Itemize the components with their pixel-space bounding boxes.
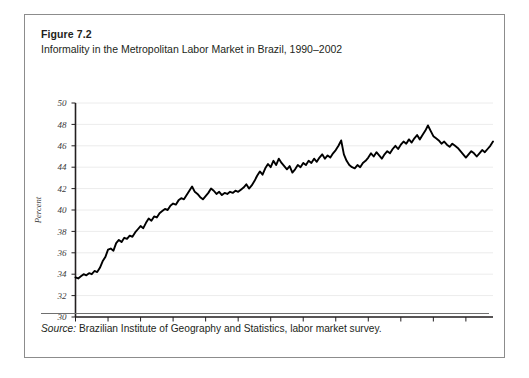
line-chart: 3032343638404244464850 Jan 90Jan 91Jan 9… — [25, 73, 504, 323]
source-note: Source: Brazilian Institute of Geography… — [41, 322, 490, 336]
y-tick-label-46: 46 — [58, 141, 68, 151]
figure-header: Figure 7.2 Informality in the Metropolit… — [41, 27, 490, 57]
y-axis-tick-labels: 3032343638404244464850 — [57, 98, 68, 322]
y-tick-label-36: 36 — [57, 248, 68, 258]
chart-plot-area: 3032343638404244464850 Jan 90Jan 91Jan 9… — [25, 73, 504, 323]
figure-title: Informality in the Metropolitan Labor Ma… — [41, 42, 490, 57]
y-tick-label-32: 32 — [57, 291, 68, 301]
y-tick-label-40: 40 — [58, 205, 68, 215]
y-tick-label-44: 44 — [58, 162, 68, 172]
y-tick-label-50: 50 — [58, 98, 68, 108]
source-text: Brazilian Institute of Geography and Sta… — [76, 323, 382, 334]
y-tick-label-38: 38 — [57, 227, 68, 237]
figure-frame: Figure 7.2 Informality in the Metropolit… — [24, 14, 505, 358]
y-axis-title: Percent — [33, 196, 43, 224]
source-label: Source: — [41, 323, 76, 334]
gridlines-group — [76, 103, 494, 317]
y-tick-label-34: 34 — [57, 269, 68, 279]
figure-number: Figure 7.2 — [41, 27, 490, 41]
series-line-informality-rate — [76, 125, 494, 278]
y-tick-label-42: 42 — [58, 184, 68, 194]
y-tick-label-48: 48 — [58, 120, 68, 130]
figure-divider-rule — [41, 313, 489, 314]
